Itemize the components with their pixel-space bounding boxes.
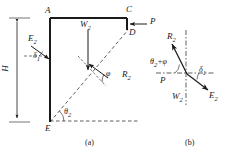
point-label-c: C [126, 5, 132, 14]
height-dimension-line [9, 18, 30, 122]
theta2-phi-angle-label-b: θ2+φ [150, 58, 167, 68]
e2-force-label-b: E2 [209, 91, 218, 102]
delta1-angle-label-a: δ1 [33, 52, 40, 62]
point-label-d: D [129, 28, 136, 37]
theta2-phi-angle-arc-b [175, 65, 180, 74]
figure-container: A C D E H E2 δ1 W2 P R2 φ θ2 (a) R2 θ2+φ… [0, 0, 234, 155]
phi-angle-arc-a [102, 74, 104, 82]
r2-force-label-a: R2 [122, 70, 131, 81]
p-force-label-b: P [160, 76, 166, 85]
r2-force-label-b: R2 [167, 32, 176, 43]
r2-force-arrow-b [172, 44, 187, 74]
point-label-e: E [45, 124, 51, 133]
e2-force-label-a: E2 [28, 34, 37, 45]
p-force-label-a: P [150, 17, 156, 26]
w2-force-label-a: W2 [80, 20, 91, 31]
point-label-a: A [45, 6, 51, 15]
theta2-angle-label-a: θ2 [64, 108, 71, 118]
height-dimension-label: H [1, 65, 10, 72]
failure-plane-dashed [50, 30, 128, 122]
phi-angle-label-a: φ [106, 70, 110, 78]
delta1-angle-label-b: δ1 [199, 66, 206, 76]
figure-svg [0, 0, 234, 155]
w2-force-label-b: W2 [172, 92, 183, 103]
subfigure-caption-a: (a) [85, 138, 94, 147]
subfigure-caption-b: (b) [185, 138, 194, 147]
